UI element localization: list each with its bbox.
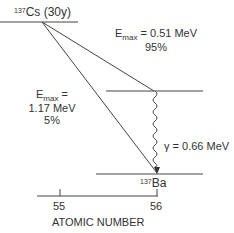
parent-nuclide-label: 137Cs (30y): [14, 6, 71, 18]
gamma-wavy-line: [153, 91, 157, 167]
beta1-emax-sub: max: [122, 33, 137, 42]
parent-mass-number: 137: [14, 7, 26, 14]
beta1-percent: 95%: [81, 41, 231, 53]
axis-tick-label-56: 56: [150, 200, 162, 212]
daughter-nuclide-label: 137Ba: [140, 177, 166, 189]
beta2-emax-sub: max: [43, 94, 58, 103]
daughter-symbol: Ba: [152, 176, 167, 190]
beta2-energy: 1.17 MeV: [20, 102, 84, 114]
beta1-energy: = 0.51 MeV: [137, 27, 197, 39]
axis-tick-label-55: 55: [53, 200, 65, 212]
parent-symbol: Cs: [26, 5, 41, 19]
beta2-eq: =: [58, 88, 67, 100]
axis-title: ATOMIC NUMBER: [52, 216, 145, 228]
beta2-percent: 5%: [20, 114, 84, 126]
gamma-label: γ = 0.66 MeV: [164, 140, 229, 152]
beta1-label: Emax = 0.51 MeV 95%: [81, 27, 231, 53]
parent-halflife: (30y): [44, 5, 71, 19]
daughter-mass-number: 137: [140, 178, 152, 185]
beta2-label: Emax = 1.17 MeV 5%: [20, 88, 84, 126]
